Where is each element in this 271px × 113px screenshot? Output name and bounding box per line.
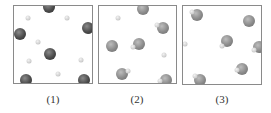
small-atom-icon: [56, 72, 61, 77]
large-atom-icon: [78, 74, 90, 84]
small-atom-icon: [252, 48, 257, 53]
large-atom-icon: [106, 40, 118, 52]
small-atom-icon: [162, 53, 167, 58]
large-atom-icon: [137, 5, 149, 15]
small-atom-icon: [126, 69, 131, 74]
small-atom-icon: [36, 40, 41, 45]
small-atom-icon: [116, 16, 121, 21]
small-atom-icon: [26, 16, 31, 21]
small-atom-icon: [131, 45, 136, 50]
large-atom-icon: [43, 5, 55, 13]
small-atom-icon: [155, 23, 160, 28]
small-atom-icon: [65, 16, 70, 21]
panel-label-2: (2): [131, 93, 144, 105]
small-atom-icon: [183, 42, 188, 47]
large-atom-icon: [82, 22, 93, 34]
large-atom-icon: [14, 28, 26, 40]
small-atom-icon: [190, 10, 195, 15]
structure-panel-3: [182, 5, 262, 85]
large-atom-icon: [44, 48, 56, 60]
small-atom-icon: [27, 59, 32, 64]
small-atom-icon: [193, 74, 198, 79]
small-atom-icon: [235, 68, 240, 73]
large-atom-icon: [243, 15, 255, 27]
small-atom-icon: [220, 44, 225, 49]
panel-label-3: (3): [216, 93, 229, 105]
structure-panel-1: [13, 5, 93, 84]
small-atom-icon: [79, 58, 84, 63]
large-atom-icon: [20, 74, 32, 84]
panel-label-1: (1): [47, 93, 60, 105]
small-atom-icon: [158, 79, 163, 84]
structure-panel-2: [98, 5, 177, 84]
